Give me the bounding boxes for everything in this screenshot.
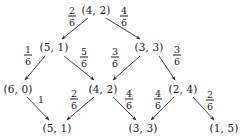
- state-node: (3, 3): [129, 123, 158, 134]
- edge-probability-label: 36: [173, 45, 181, 66]
- edge-probability-label: 1: [38, 95, 44, 105]
- fraction-denominator: 6: [173, 56, 181, 66]
- state-node: (5, 1): [40, 42, 69, 53]
- transition-diagram: (4, 2)(5, 1)(3, 3)(6, 0)(4, 2)(2, 4)(5, …: [0, 0, 240, 139]
- fraction-numerator: 4: [154, 89, 162, 99]
- state-node: (1, 5): [210, 123, 239, 134]
- fraction-denominator: 6: [206, 101, 214, 111]
- fraction-denominator: 6: [154, 100, 162, 110]
- fraction-denominator: 6: [80, 58, 88, 68]
- edge-probability-label: 26: [206, 90, 214, 111]
- edge-probability-label: 26: [70, 89, 78, 110]
- edge-probability-label: 46: [125, 89, 133, 110]
- fraction-numerator: 2: [206, 90, 214, 100]
- fraction-numerator: 3: [173, 45, 181, 55]
- edge-probability-label: 16: [24, 45, 32, 66]
- fraction-denominator: 6: [125, 100, 133, 110]
- fraction-numerator: 2: [68, 6, 76, 16]
- fraction-numerator: 4: [120, 6, 128, 16]
- state-node: (5, 1): [43, 123, 72, 134]
- edge-probability-label: 36: [111, 47, 119, 68]
- fraction-numerator: 1: [24, 45, 32, 55]
- state-node: (4, 2): [82, 5, 111, 16]
- edge-probability-label: 46: [120, 6, 128, 27]
- edge-probability-label: 56: [80, 47, 88, 68]
- fraction-denominator: 6: [120, 17, 128, 27]
- fraction-denominator: 6: [68, 17, 76, 27]
- state-node: (4, 2): [89, 84, 118, 95]
- fraction-denominator: 6: [24, 56, 32, 66]
- state-node: (2, 4): [169, 84, 198, 95]
- edge-probability-label: 26: [68, 6, 76, 27]
- fraction-denominator: 6: [70, 100, 78, 110]
- fraction-numerator: 5: [80, 47, 88, 57]
- fraction-numerator: 2: [70, 89, 78, 99]
- fraction-denominator: 6: [111, 58, 119, 68]
- edge-probability-label: 46: [154, 89, 162, 110]
- state-node: (3, 3): [135, 42, 164, 53]
- fraction-numerator: 3: [111, 47, 119, 57]
- state-node: (6, 0): [4, 84, 33, 95]
- fraction-numerator: 4: [125, 89, 133, 99]
